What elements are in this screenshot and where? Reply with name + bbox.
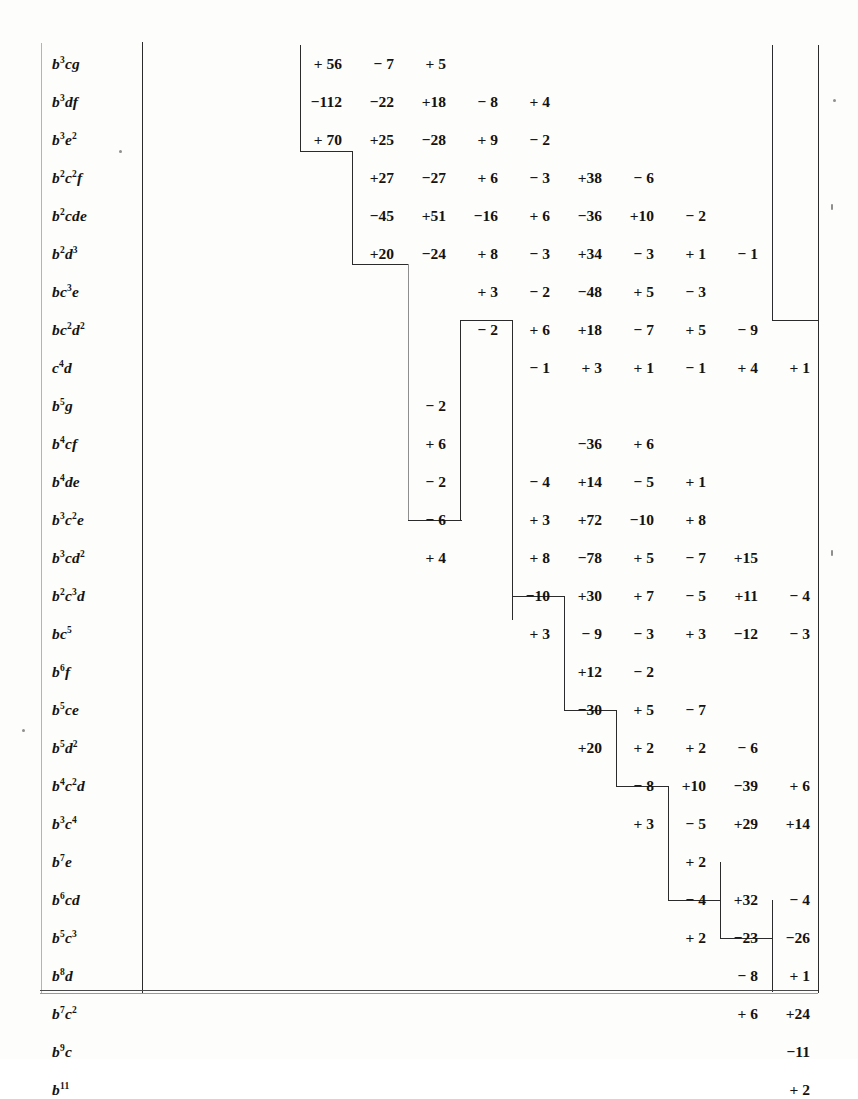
table-cell: −48 xyxy=(554,273,602,311)
row-label: bc2d2 xyxy=(52,311,162,349)
row-label: bc5 xyxy=(52,615,162,653)
row-label: b3c2e xyxy=(52,501,162,539)
table-cell: +18 xyxy=(398,83,446,121)
table-row: b7c2+ 6+24 xyxy=(0,995,858,1033)
table-cell: + 3 xyxy=(606,805,654,843)
row-label: b4c2d xyxy=(52,767,162,805)
table-cell: + 5 xyxy=(398,45,446,83)
table-cell: + 2 xyxy=(658,919,706,957)
table-cell: + 56 xyxy=(294,45,342,83)
row-label: b9c xyxy=(52,1033,162,1071)
table-cell: − 4 xyxy=(762,577,810,615)
row-label: b7e xyxy=(52,843,162,881)
table-cell: +14 xyxy=(762,805,810,843)
table-cell: + 3 xyxy=(502,615,550,653)
table-cell: −112 xyxy=(294,83,342,121)
table-cell: + 1 xyxy=(762,349,810,387)
table-row: b5d2+20+ 2+ 2− 6 xyxy=(0,729,858,767)
table-cell: − 1 xyxy=(502,349,550,387)
table-cell: + 1 xyxy=(658,235,706,273)
table-cell: −26 xyxy=(762,919,810,957)
table-cell: + 3 xyxy=(554,349,602,387)
table-cell: −27 xyxy=(398,159,446,197)
table-cell: + 7 xyxy=(606,577,654,615)
table-cell: + 6 xyxy=(398,425,446,463)
table-cell: + 5 xyxy=(606,273,654,311)
table-cell: − 1 xyxy=(658,349,706,387)
table-cell: + 4 xyxy=(398,539,446,577)
row-label: b4cf xyxy=(52,425,162,463)
table-cell: −11 xyxy=(762,1033,810,1071)
table-cell: − 9 xyxy=(710,311,758,349)
table-cell: + 5 xyxy=(606,691,654,729)
row-label: b6f xyxy=(52,653,162,691)
table-cell: + 2 xyxy=(658,843,706,881)
table-cell: +72 xyxy=(554,501,602,539)
table-cell: +10 xyxy=(606,197,654,235)
table-cell: +29 xyxy=(710,805,758,843)
table-cell: +34 xyxy=(554,235,602,273)
table-row: b8d− 8+ 1 xyxy=(0,957,858,995)
row-label: b2c2f xyxy=(52,159,162,197)
table-cell: − 7 xyxy=(606,311,654,349)
table-cell: − 5 xyxy=(606,463,654,501)
row-label: c4d xyxy=(52,349,162,387)
table-cell: − 7 xyxy=(658,691,706,729)
table-cell: − 2 xyxy=(606,653,654,691)
table-cell: +14 xyxy=(554,463,602,501)
table-cell: −10 xyxy=(502,577,550,615)
table-cell: − 2 xyxy=(398,463,446,501)
table-cell: −10 xyxy=(606,501,654,539)
table-cell: + 6 xyxy=(710,995,758,1033)
table-row: b2cde−45+51−16+ 6−36+10− 2 xyxy=(0,197,858,235)
table-cell: +20 xyxy=(346,235,394,273)
row-label: b5ce xyxy=(52,691,162,729)
row-label: b11 xyxy=(52,1071,162,1099)
table-cell: + 6 xyxy=(762,767,810,805)
table-cell: −36 xyxy=(554,197,602,235)
table-cell: + 5 xyxy=(658,311,706,349)
table-row: bc5+ 3− 9− 3+ 3−12− 3 xyxy=(0,615,858,653)
table-row: b6f+12− 2 xyxy=(0,653,858,691)
table-cell: −39 xyxy=(710,767,758,805)
table-cell: − 3 xyxy=(502,235,550,273)
table-row: c4d− 1+ 3+ 1− 1+ 4+ 1 xyxy=(0,349,858,387)
table-row: b3cg+ 56− 7+ 5 xyxy=(0,45,858,83)
row-label: b5c3 xyxy=(52,919,162,957)
table-cell: +30 xyxy=(554,577,602,615)
table-row: b5ce−30+ 5− 7 xyxy=(0,691,858,729)
table-row: b3c4+ 3− 5+29+14 xyxy=(0,805,858,843)
table-cell: − 2 xyxy=(502,121,550,159)
table-cell: + 9 xyxy=(450,121,498,159)
table-row: b2d3+20−24+ 8− 3+34− 3+ 1− 1 xyxy=(0,235,858,273)
table-cell: +20 xyxy=(554,729,602,767)
table-cell: + 3 xyxy=(502,501,550,539)
table-cell: − 7 xyxy=(658,539,706,577)
row-label: b3e2 xyxy=(52,121,162,159)
table-cell: + 1 xyxy=(606,349,654,387)
table-cell: − 3 xyxy=(762,615,810,653)
table-row: b6cd− 4+32− 4 xyxy=(0,881,858,919)
row-label: bc3e xyxy=(52,273,162,311)
table-cell: −23 xyxy=(710,919,758,957)
table-cell: − 4 xyxy=(658,881,706,919)
table-row: b2c3d−10+30+ 7− 5+11− 4 xyxy=(0,577,858,615)
table-cell: − 7 xyxy=(346,45,394,83)
table-cell: +10 xyxy=(658,767,706,805)
table-cell: + 6 xyxy=(450,159,498,197)
table-cell: + 1 xyxy=(658,463,706,501)
table-cell: −36 xyxy=(554,425,602,463)
table-row: b4de− 2− 4+14− 5+ 1 xyxy=(0,463,858,501)
table-cell: +25 xyxy=(346,121,394,159)
table-cell: +24 xyxy=(762,995,810,1033)
row-label: b3cd2 xyxy=(52,539,162,577)
table-cell: +12 xyxy=(554,653,602,691)
table-cell: − 6 xyxy=(398,501,446,539)
table-cell: − 3 xyxy=(502,159,550,197)
table-cell: − 2 xyxy=(502,273,550,311)
table-row: b3cd2+ 4+ 8−78+ 5− 7+15 xyxy=(0,539,858,577)
table-cell: + 8 xyxy=(502,539,550,577)
table-cell: + 6 xyxy=(502,197,550,235)
table-cell: −22 xyxy=(346,83,394,121)
